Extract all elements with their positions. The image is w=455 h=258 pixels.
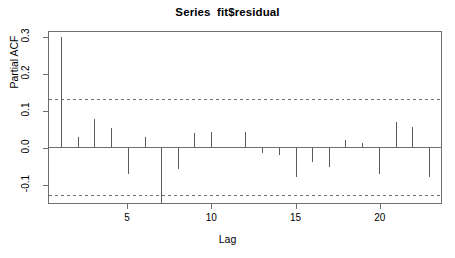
plot-box	[48, 31, 442, 204]
plot-area	[49, 32, 441, 203]
x-tickmark	[211, 204, 212, 209]
page-title: Series fit$residual	[0, 6, 455, 18]
bar-group	[61, 37, 429, 204]
x-tick-label-15: 15	[281, 212, 311, 223]
pacf-plot-svg	[49, 32, 441, 203]
x-axis-label: Lag	[0, 233, 455, 245]
x-tick-label-10: 10	[196, 212, 226, 223]
y-tick-label-01: -0.1	[20, 168, 31, 198]
y-tick-label-01: 0.1	[20, 94, 31, 124]
x-tickmark	[380, 204, 381, 209]
y-axis-label: Partial ACF	[8, 2, 20, 122]
y-tick-label-02: 0.2	[20, 57, 31, 87]
y-tick-label-03: 0.3	[20, 20, 31, 50]
x-tick-label-20: 20	[365, 212, 395, 223]
x-tick-label-5: 5	[112, 212, 142, 223]
y-tick-label-00: 0.0	[20, 131, 31, 161]
pacf-chart-figure: Series fit$residual Partial ACF Lag -0.1…	[0, 0, 455, 258]
x-tickmark	[127, 204, 128, 209]
x-tickmark	[296, 204, 297, 209]
